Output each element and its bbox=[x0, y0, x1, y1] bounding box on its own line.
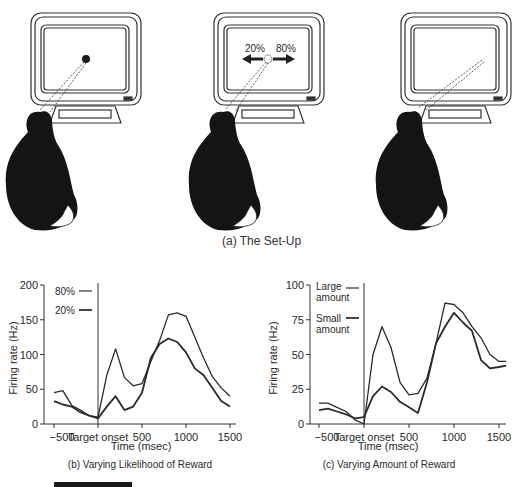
y-tick-label: 25 bbox=[292, 383, 304, 395]
x-tick-label: 1500 bbox=[487, 431, 511, 443]
cue-target-icon bbox=[264, 55, 272, 63]
axes: 0255075100−500Target onset50010001500 bbox=[286, 279, 512, 443]
chart-caption: (c) Varying Amount of Reward bbox=[323, 459, 456, 470]
monitor-icon bbox=[214, 13, 324, 123]
y-tick-label: 100 bbox=[20, 349, 38, 361]
x-tick-label: 1500 bbox=[218, 431, 242, 443]
legend-label-large: Large amount bbox=[316, 281, 350, 303]
left-arrow-icon bbox=[242, 54, 263, 64]
legend-large-line2: amount bbox=[316, 292, 350, 303]
gaze-line bbox=[418, 60, 484, 110]
chart-caption: (b) Varying Likelihood of Reward bbox=[68, 459, 212, 470]
y-tick-label: 200 bbox=[20, 279, 38, 291]
legend-large-line1: Large bbox=[316, 281, 342, 292]
y-tick-label: 50 bbox=[292, 349, 304, 361]
monitor-icon bbox=[401, 13, 511, 123]
y-axis-label: Firing rate (Hz) bbox=[7, 321, 19, 394]
y-tick-label: 0 bbox=[32, 418, 38, 430]
plot-lines bbox=[319, 303, 506, 424]
x-axis-label: Time (msec) bbox=[111, 440, 172, 452]
right-arrow-icon bbox=[273, 54, 295, 64]
setup-caption: (a) The Set-Up bbox=[222, 234, 301, 248]
series-line-1 bbox=[54, 339, 230, 419]
legend-label-20: 20% bbox=[55, 305, 75, 316]
x-tick-label: 1000 bbox=[442, 431, 466, 443]
y-axis-label: Firing rate (Hz) bbox=[267, 321, 279, 394]
chart-amount-of-reward: Firing rate (Hz) 0255075100−500Target on… bbox=[260, 270, 518, 482]
setup-illustration: 20% 80% bbox=[0, 0, 518, 260]
x-tick-label: 1000 bbox=[174, 431, 198, 443]
y-tick-label: 75 bbox=[292, 314, 304, 326]
y-tick-label: 100 bbox=[286, 279, 304, 291]
legend-small-line2: amount bbox=[316, 324, 350, 335]
y-tick-label: 50 bbox=[26, 383, 38, 395]
right-probability-label: 80% bbox=[276, 43, 296, 54]
legend: 80% 20% bbox=[55, 286, 92, 316]
scene-cue: 20% 80% bbox=[183, 0, 353, 240]
chart-likelihood-of-reward: Firing rate (Hz) 050100150200−500Target … bbox=[0, 270, 260, 482]
decorative-bar bbox=[54, 482, 132, 487]
legend-label-small: Small amount bbox=[316, 313, 350, 335]
y-tick-label: 0 bbox=[298, 418, 304, 430]
series-line-0 bbox=[54, 313, 230, 417]
scene-fixation bbox=[0, 0, 170, 240]
scene-saccade bbox=[370, 0, 518, 240]
left-probability-label: 20% bbox=[245, 43, 265, 54]
axes: 050100150200−500Target onset50010001500 bbox=[20, 279, 243, 443]
y-tick-label: 150 bbox=[20, 314, 38, 326]
legend: Large amount Small amount bbox=[316, 281, 359, 335]
x-axis-label: Time (msec) bbox=[358, 440, 419, 452]
legend-small-line1: Small bbox=[316, 313, 341, 324]
fixation-target-icon bbox=[82, 55, 90, 63]
plot-lines bbox=[54, 313, 230, 419]
series-line-0 bbox=[319, 303, 506, 424]
monitor-icon bbox=[31, 13, 141, 123]
legend-label-80: 80% bbox=[55, 286, 75, 297]
